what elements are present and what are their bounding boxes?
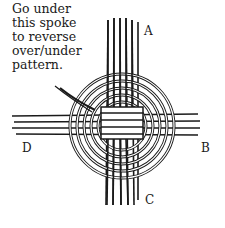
spoke-label-d: D [22, 141, 32, 155]
weaver-end [60, 88, 95, 110]
spoke-label-c: C [145, 193, 154, 207]
spoke-label-a: A [144, 24, 153, 38]
woven-spokes-illustration [0, 0, 225, 228]
spoke-label-b: B [201, 141, 210, 155]
